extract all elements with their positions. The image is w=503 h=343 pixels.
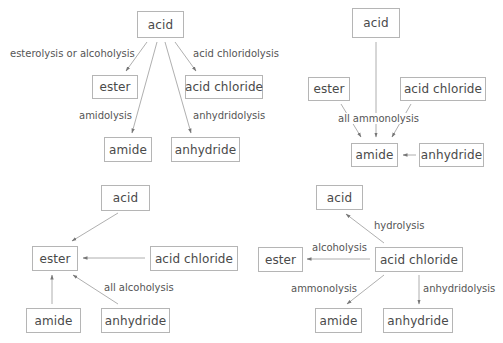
- node-acid-chloride: acid chloride: [185, 75, 263, 99]
- node-amide: amide: [315, 308, 362, 333]
- node-acid-chloride: acid chloride: [150, 246, 238, 271]
- node-anhydride: anhydride: [419, 143, 484, 167]
- node-ester: ester: [258, 247, 303, 272]
- label-all-ammonolysis: all ammonolysis: [337, 113, 420, 124]
- node-anhydride: anhydride: [383, 308, 453, 333]
- node-acid: acid: [352, 8, 400, 38]
- node-acid: acid: [316, 185, 363, 210]
- label-hydrolysis: hydrolysis: [374, 220, 425, 231]
- node-amide: amide: [26, 308, 81, 333]
- label-all-alcoholysis: all alcoholysis: [104, 282, 174, 293]
- label-anhydridolysis: anhydridolysis: [423, 283, 495, 294]
- node-ester: ester: [32, 246, 78, 271]
- node-acid: acid: [101, 185, 150, 211]
- node-amide: amide: [104, 137, 152, 162]
- node-anhydride: anhydride: [101, 308, 170, 333]
- label-amidolysis: amidolysis: [79, 110, 132, 121]
- label-acid-chloridolysis: acid chloridolysis: [193, 48, 279, 59]
- node-amide: amide: [351, 143, 398, 167]
- label-ammonolysis: ammonolysis: [291, 283, 357, 294]
- node-acid-chloride: acid chloride: [375, 247, 463, 272]
- label-alcoholysis: alcoholysis: [312, 242, 367, 253]
- node-ester: ester: [92, 75, 138, 99]
- node-acid-chloride: acid chloride: [400, 77, 486, 101]
- node-ester: ester: [308, 77, 350, 101]
- arrow-acid-to-ester: [72, 213, 118, 241]
- node-acid: acid: [137, 11, 184, 38]
- label-esterolysis: esterolysis or alcoholysis: [10, 48, 135, 59]
- label-anhydridolysis: anhydridolysis: [193, 110, 265, 121]
- node-anhydride: anhydride: [171, 137, 240, 162]
